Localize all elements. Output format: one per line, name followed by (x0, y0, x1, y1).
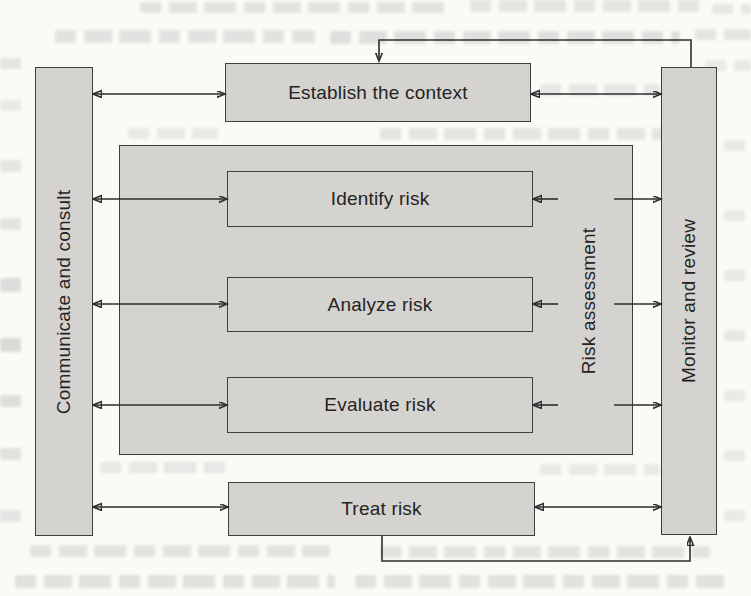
evaluate-risk-label: Evaluate risk (324, 394, 435, 416)
risk-management-process-diagram: Risk assessment Communicate and consult … (0, 0, 751, 596)
evaluate-risk-box: Evaluate risk (227, 377, 533, 433)
communicate-and-consult-label: Communicate and consult (53, 189, 75, 413)
establish-the-context-label: Establish the context (288, 82, 468, 104)
monitor-and-review-bar: Monitor and review (661, 67, 717, 535)
boxes-layer: Communicate and consult Monitor and revi… (0, 0, 751, 596)
identify-risk-label: Identify risk (331, 188, 430, 210)
analyze-risk-label: Analyze risk (328, 294, 433, 316)
identify-risk-box: Identify risk (227, 171, 533, 227)
treat-risk-label: Treat risk (341, 498, 421, 520)
scanned-page: Risk assessment Communicate and consult … (0, 0, 751, 596)
analyze-risk-box: Analyze risk (227, 277, 533, 332)
treat-risk-box: Treat risk (228, 482, 535, 536)
communicate-and-consult-bar: Communicate and consult (35, 67, 93, 536)
establish-the-context-box: Establish the context (225, 63, 531, 122)
monitor-and-review-label: Monitor and review (678, 219, 700, 383)
